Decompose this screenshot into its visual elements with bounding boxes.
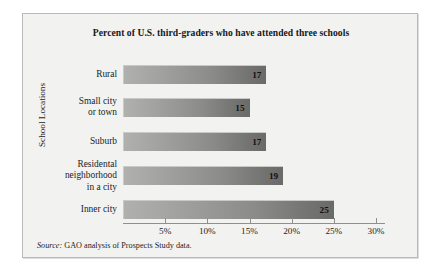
x-axis-tick-label: 5% — [145, 226, 185, 236]
x-axis-tick — [292, 218, 293, 224]
x-axis-tick-label: 10% — [187, 226, 227, 236]
bar-small-city-or-town[interactable]: 15 — [123, 98, 250, 117]
category-label-suburb: Suburb — [0, 136, 117, 147]
category-label-line: in a city — [0, 182, 117, 193]
category-label-rural: Rural — [0, 69, 117, 80]
category-label-line: or town — [0, 107, 117, 118]
x-axis-tick-label: 20% — [272, 226, 312, 236]
bar-value-label: 19 — [269, 171, 278, 181]
bar-value-label: 17 — [252, 137, 261, 147]
bar-rural[interactable]: 17 — [123, 65, 266, 84]
x-axis-line — [123, 223, 385, 224]
chart-figure-frame: Percent of U.S. third-graders who have a… — [22, 13, 418, 258]
category-label-small-city-or-town: Small city or town — [0, 96, 117, 119]
bar-residental-neighborhood-in-a-city[interactable]: 19 — [123, 166, 283, 185]
category-label-line: Suburb — [0, 136, 117, 147]
category-label-line: neighborhood — [0, 170, 117, 181]
category-label-line: Inner city — [0, 204, 117, 215]
category-label-line: Small city — [0, 96, 117, 107]
bar-value-label: 15 — [235, 103, 244, 113]
x-axis-tick — [376, 218, 377, 224]
source-note: Source: GAO analysis of Prospects Study … — [37, 241, 192, 250]
source-text: GAO analysis of Prospects Study data. — [62, 241, 191, 250]
source-label: Source: — [37, 241, 62, 250]
x-axis-tick — [334, 218, 335, 224]
x-axis-tick — [250, 218, 251, 224]
x-axis-tick — [207, 218, 208, 224]
category-label-line: Residental — [0, 159, 117, 170]
x-axis-tick-label: 25% — [314, 226, 354, 236]
category-label-inner-city: Inner city — [0, 204, 117, 215]
bar-value-label: 25 — [320, 205, 329, 215]
x-axis-tick — [165, 218, 166, 224]
x-axis-tick-label: 15% — [230, 226, 270, 236]
bar-value-label: 17 — [252, 70, 261, 80]
x-axis-tick-label: 30% — [356, 226, 396, 236]
bar-inner-city[interactable]: 25 — [123, 200, 334, 219]
category-label-residental-neighborhood-in-a-city: Residental neighborhood in a city — [0, 159, 117, 193]
plot-area: Rural 17 Small city or town 15 Suburb 17 — [23, 14, 419, 259]
bar-suburb[interactable]: 17 — [123, 132, 266, 151]
category-label-line: Rural — [0, 69, 117, 80]
